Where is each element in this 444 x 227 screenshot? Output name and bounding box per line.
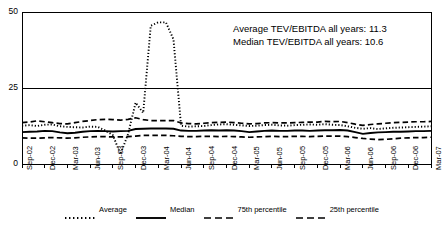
legend-key-icon <box>65 207 95 213</box>
x-axis-tick-label: Jun-05 <box>275 147 284 170</box>
x-axis-tick-label: Jun-03 <box>93 147 102 170</box>
x-axis-tick-label: Dec-03 <box>139 146 148 170</box>
legend-item-median: Median <box>136 205 195 214</box>
y-axis-tick-label: 0 <box>0 158 18 168</box>
y-axis-tick-label: 25 <box>0 82 18 92</box>
x-axis-tick-label: Mar-05 <box>252 146 261 170</box>
legend-label: 75th percentile <box>238 205 287 214</box>
series-line-median <box>22 128 431 133</box>
x-axis-tick-label: Mar-06 <box>343 146 352 170</box>
x-axis-tick-label: Mar-03 <box>71 146 80 170</box>
x-axis-tick-label: Mar-07 <box>434 146 443 170</box>
x-axis-tick-label: Dec-04 <box>230 146 239 170</box>
legend-key-icon <box>204 207 234 213</box>
x-axis-tick-label: Jun-04 <box>184 147 193 170</box>
x-axis-tick-label: Jun-06 <box>366 147 375 170</box>
x-axis-tick-label: Sep-05 <box>298 146 307 170</box>
x-axis-tick-label: Sep-04 <box>207 146 216 170</box>
legend-label: 25th percentile <box>330 205 379 214</box>
x-axis-tick-label: Dec-05 <box>321 146 330 170</box>
x-axis-tick-label: Sep-03 <box>116 146 125 170</box>
x-axis-tick-label: Sep-06 <box>389 146 398 170</box>
chart-container: 02550 Sep-02Dec-02Mar-03Jun-03Sep-03Dec-… <box>0 0 444 227</box>
x-axis-tick-label: Mar-04 <box>162 146 171 170</box>
x-axis-tick-label: Sep-02 <box>25 146 34 170</box>
legend-item-25th-percentile: 25th percentile <box>296 205 379 214</box>
chart-legend: AverageMedian75th percentile25th percent… <box>0 205 444 214</box>
legend-key-icon <box>136 207 166 213</box>
annotation-median: Median TEV/EBITDA all years: 10.6 <box>233 35 387 48</box>
legend-key-icon <box>296 207 326 213</box>
series-line-25th-percentile <box>22 135 431 139</box>
x-axis-tick-label: Dec-06 <box>411 146 420 170</box>
legend-label: Median <box>170 205 195 214</box>
y-axis-tick-label: 50 <box>0 6 18 16</box>
legend-label: Average <box>99 205 127 214</box>
legend-item-75th-percentile: 75th percentile <box>204 205 287 214</box>
legend-item-average: Average <box>65 205 127 214</box>
series-line-75th-percentile <box>22 118 431 126</box>
x-axis-tick-label: Dec-02 <box>48 146 57 170</box>
annotation-average: Average TEV/EBITDA all years: 11.3 <box>233 22 387 35</box>
summary-annotation: Average TEV/EBITDA all years: 11.3 Media… <box>233 22 387 48</box>
